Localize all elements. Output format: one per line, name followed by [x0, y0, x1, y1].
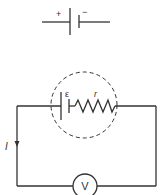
current-arrow-icon [15, 141, 20, 147]
voltmeter-label: V [81, 180, 89, 192]
current-label: I [5, 141, 8, 152]
emf-label: ε [65, 89, 69, 99]
battery-symbol: + − [42, 7, 110, 35]
plus-label: + [56, 9, 61, 19]
internal-resistance-label: r [94, 89, 98, 99]
internal-resistor [75, 100, 115, 112]
minus-label: − [82, 7, 87, 17]
circuit-diagram: + − V I ε r [0, 0, 166, 195]
circuit: V I ε r [5, 72, 156, 195]
